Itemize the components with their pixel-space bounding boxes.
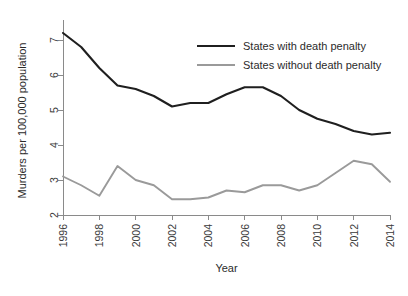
y-tick-label: 3	[48, 177, 60, 183]
x-tick-label: 1996	[57, 224, 69, 248]
x-tick-label: 2012	[348, 224, 360, 248]
y-axis-title: Murders per 100,000 population	[16, 43, 28, 199]
x-tick-label: 2002	[166, 224, 178, 248]
x-tick-label: 2004	[202, 224, 214, 248]
y-tick-label: 5	[48, 107, 60, 113]
y-tick-label: 6	[48, 72, 60, 78]
x-tick-label: 2008	[275, 224, 287, 248]
chart-container: 234567 199619982000200220042006200820102…	[0, 0, 408, 296]
x-tick-label: 2010	[311, 224, 323, 248]
y-axis-ticks: 234567	[48, 37, 63, 218]
y-tick-label: 4	[48, 142, 60, 148]
x-tick-label: 2014	[384, 224, 396, 248]
y-tick-label: 7	[48, 37, 60, 43]
y-tick-label: 2	[48, 212, 60, 218]
legend-label-1: States without death penalty	[243, 59, 382, 71]
x-tick-label: 1998	[93, 224, 105, 248]
series-line-1	[63, 161, 390, 200]
plot-area: 234567 199619982000200220042006200820102…	[48, 20, 396, 247]
chart-legend: States with death penaltyStates without …	[197, 40, 382, 71]
x-axis-ticks: 1996199820002002200420062008201020122014	[57, 215, 396, 247]
x-tick-label: 2006	[239, 224, 251, 248]
legend-label-0: States with death penalty	[243, 40, 366, 52]
data-series-group	[63, 33, 390, 199]
x-axis-title: Year	[215, 262, 238, 274]
murder-rate-line-chart: 234567 199619982000200220042006200820102…	[0, 0, 408, 296]
x-tick-label: 2000	[130, 224, 142, 248]
